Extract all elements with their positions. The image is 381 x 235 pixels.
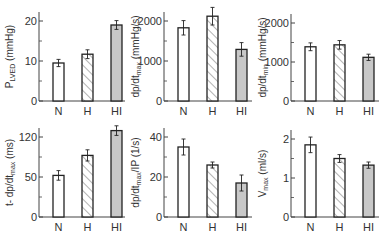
plved-bar-chart: 01020PLVED (mmHg)NHHI [0, 0, 127, 118]
bar-n [305, 145, 316, 217]
dpdt-ip-bar-chart: 02040dp/dtmax/IP (1/s)NHHI [127, 117, 254, 235]
x-category-label: N [180, 105, 188, 117]
x-category-label: N [55, 221, 63, 233]
x-category-label: N [55, 105, 63, 117]
bar-h [82, 155, 93, 217]
y-axis-label: Vmax (ml/s) [257, 150, 269, 198]
y-tick-label: 120 [19, 131, 37, 143]
x-category-label: H [209, 105, 217, 117]
bar-hi [111, 131, 122, 217]
y-tick-label: 40 [150, 131, 162, 143]
y-tick-label: 50 [25, 171, 37, 183]
bar-n [53, 63, 64, 101]
y-tick-label: 0 [31, 95, 37, 107]
x-category-label: N [180, 221, 188, 233]
chart-panel-vmax: 012Vmax (ml/s)NHHI [254, 117, 381, 235]
x-category-label: HI [236, 221, 247, 233]
chart-panel-dpdt-max: 010002000dp/dtmax (mmHg/s)NHHI [127, 0, 254, 118]
y-axis-label: dp/dtmax (mmHg/s) [130, 15, 142, 97]
bar-hi [363, 165, 374, 217]
x-category-label: N [307, 105, 315, 117]
y-axis-label: dp/dtmin (mmHg/s) [257, 17, 269, 97]
x-category-label: HI [363, 105, 374, 117]
y-axis-label: PLVED (mmHg) [4, 25, 16, 88]
x-category-label: H [84, 105, 92, 117]
x-category-label: N [307, 221, 315, 233]
chart-panel-dpdt-ip: 02040dp/dtmax/IP (1/s)NHHI [127, 117, 254, 235]
y-tick-label: 0 [283, 211, 289, 223]
x-category-label: HI [111, 105, 122, 117]
y-tick-label: 2000 [138, 15, 162, 27]
x-category-label: H [336, 221, 344, 233]
x-category-label: H [336, 105, 344, 117]
chart-panel-plved: 01020PLVED (mmHg)NHHI [0, 0, 127, 118]
bar-hi [111, 25, 122, 101]
y-tick-label: 0 [156, 95, 162, 107]
dpdt-max-bar-chart: 010002000dp/dtmax (mmHg/s)NHHI [127, 0, 254, 118]
y-tick-label: 1 [283, 172, 289, 184]
bar-h [207, 165, 218, 217]
chart-panel-t-dpdt-max: 050120t- dp/dtmax (ms)NHHI [0, 117, 127, 235]
y-tick-label: 20 [150, 171, 162, 183]
bar-h [334, 45, 345, 101]
y-tick-label: 0 [156, 211, 162, 223]
bar-n [178, 147, 189, 217]
t-dpdt-max-bar-chart: 050120t- dp/dtmax (ms)NHHI [0, 117, 127, 235]
bar-n [178, 28, 189, 101]
y-tick-label: 20 [25, 15, 37, 27]
bar-n [305, 47, 316, 101]
bar-n [53, 175, 64, 217]
chart-panel-dpdt-min: 010002000dp/dtmin (mmHg/s)NHHI [254, 0, 381, 118]
x-category-label: HI [111, 221, 122, 233]
bar-h [334, 159, 345, 218]
y-axis-label: t- dp/dtmax (ms) [4, 139, 16, 206]
x-category-label: H [209, 221, 217, 233]
vmax-bar-chart: 012Vmax (ml/s)NHHI [254, 117, 381, 235]
y-tick-label: 2000 [265, 17, 289, 29]
x-category-label: H [84, 221, 92, 233]
y-tick-label: 10 [25, 55, 37, 67]
y-tick-label: 2 [283, 133, 289, 145]
dpdt-min-bar-chart: 010002000dp/dtmin (mmHg/s)NHHI [254, 0, 381, 118]
bar-h [82, 54, 93, 101]
y-axis-label: dp/dtmax/IP (1/s) [130, 137, 142, 207]
y-tick-label: 0 [31, 211, 37, 223]
bar-hi [363, 57, 374, 101]
y-tick-label: 0 [283, 95, 289, 107]
bar-hi [236, 49, 247, 101]
x-category-label: HI [236, 105, 247, 117]
bar-h [207, 16, 218, 101]
x-category-label: HI [363, 221, 374, 233]
